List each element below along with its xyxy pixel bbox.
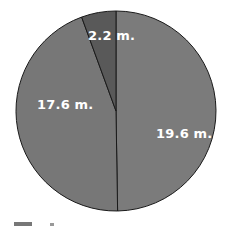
slice-label-19-6: 19.6 m. <box>156 126 213 141</box>
slice-label-2-2: 2.2 m. <box>88 28 135 43</box>
legend-text-fragment <box>50 223 54 226</box>
slice-label-17-6: 17.6 m. <box>37 97 94 112</box>
legend-swatch-fragment <box>14 222 32 226</box>
